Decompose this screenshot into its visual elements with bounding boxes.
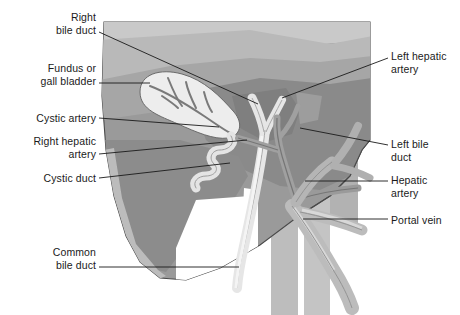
label-cystic-artery: Cystic artery [14,112,96,125]
liver-body [100,22,372,284]
label-left-hepatic-artery: Left hepatic artery [391,50,457,75]
label-fundus-or-gall-bladder: Fundus or gall bladder [10,62,96,87]
anatomy-figure: Right bile duct Fundus or gall bladder C… [0,0,460,315]
label-cystic-duct: Cystic duct [20,172,96,185]
label-hepatic-artery: Hepatic artery [391,174,457,199]
label-right-bile-duct: Right bile duct [18,11,96,36]
label-common-bile-duct: Common bile duct [20,246,96,271]
label-right-hepatic-artery: Right hepatic artery [8,135,96,160]
label-left-bile-duct: Left bile duct [391,138,457,163]
label-portal-vein: Portal vein [391,214,457,227]
